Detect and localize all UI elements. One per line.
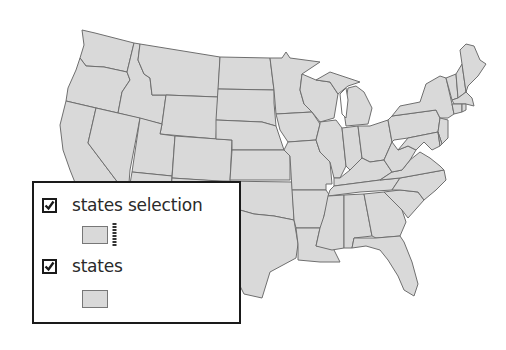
checkmark-icon (44, 261, 55, 272)
state-connecticut[interactable] (452, 104, 462, 114)
map-legend: states selection states (32, 181, 241, 324)
state-wyoming[interactable] (160, 95, 218, 139)
state-colorado[interactable] (172, 136, 232, 182)
lake-michigan (340, 88, 348, 118)
polygon-fill-swatch (82, 290, 108, 308)
state-florida[interactable] (352, 236, 418, 296)
layer-visibility-checkbox[interactable] (42, 198, 57, 213)
legend-layer-states-selection[interactable]: states selection (42, 195, 203, 215)
state-rhode-island[interactable] (462, 104, 466, 112)
checkmark-icon (44, 200, 55, 211)
selection-outline-symbol-icon (112, 223, 117, 247)
layer-visibility-checkbox[interactable] (42, 259, 57, 274)
state-new-york[interactable] (392, 76, 454, 118)
state-north-dakota[interactable] (218, 57, 274, 90)
state-iowa[interactable] (276, 112, 320, 142)
state-michigan-lower[interactable] (344, 86, 372, 126)
layer-name: states selection (72, 195, 203, 215)
state-kansas[interactable] (230, 150, 290, 180)
layer-name: states (72, 256, 123, 276)
polygon-fill-swatch (82, 226, 108, 244)
legend-layer-states[interactable]: states (42, 256, 123, 276)
